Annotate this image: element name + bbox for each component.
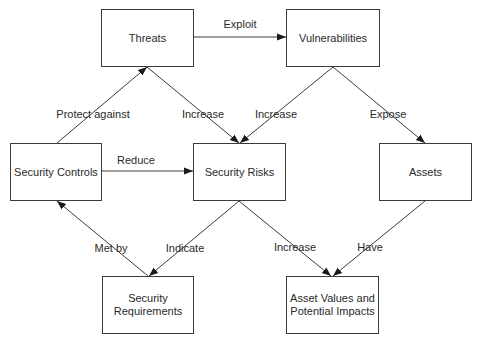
node-security-controls-label: Security Controls xyxy=(14,166,98,179)
node-vulnerabilities-label: Vulnerabilities xyxy=(299,32,367,45)
edge-label-met-by: Met by xyxy=(94,242,127,254)
edge-label-have: Have xyxy=(357,241,383,253)
edge-label-increase-vulnerabilities: Increase xyxy=(255,108,297,120)
edge-indicate xyxy=(149,201,239,276)
node-security-requirements-label-line1: Security xyxy=(128,292,168,305)
edge-label-indicate: Indicate xyxy=(166,242,205,254)
edge-expose xyxy=(333,67,425,143)
node-assets-label: Assets xyxy=(409,166,442,179)
edge-met-by xyxy=(57,201,148,276)
node-security-risks: Security Risks xyxy=(193,143,286,201)
node-threats: Threats xyxy=(101,9,194,67)
edge-protect-against xyxy=(57,67,147,143)
node-security-requirements-label-line2: Requirements xyxy=(114,305,182,318)
edge-label-expose: Expose xyxy=(370,108,407,120)
edge-label-increase-threats: Increase xyxy=(182,108,224,120)
edge-have xyxy=(333,201,425,276)
edge-increase-vulnerabilities xyxy=(240,67,333,143)
edge-label-increase-impacts: Increase xyxy=(274,241,316,253)
node-assets: Assets xyxy=(379,143,472,201)
node-security-requirements: Security Requirements xyxy=(102,276,194,334)
edge-label-protect-against: Protect against xyxy=(56,108,129,120)
edge-label-reduce: Reduce xyxy=(117,154,155,166)
node-asset-values-label-line2: Potential Impacts xyxy=(290,305,374,318)
node-asset-values-label-line1: Asset Values and xyxy=(290,292,375,305)
edge-label-exploit: Exploit xyxy=(223,18,256,30)
edge-increase-threats xyxy=(147,67,239,143)
node-vulnerabilities: Vulnerabilities xyxy=(286,9,380,67)
node-threats-label: Threats xyxy=(129,32,166,45)
node-security-controls: Security Controls xyxy=(10,143,102,201)
edge-increase-impacts xyxy=(239,201,331,276)
node-asset-values: Asset Values and Potential Impacts xyxy=(286,276,379,334)
node-security-risks-label: Security Risks xyxy=(205,166,275,179)
